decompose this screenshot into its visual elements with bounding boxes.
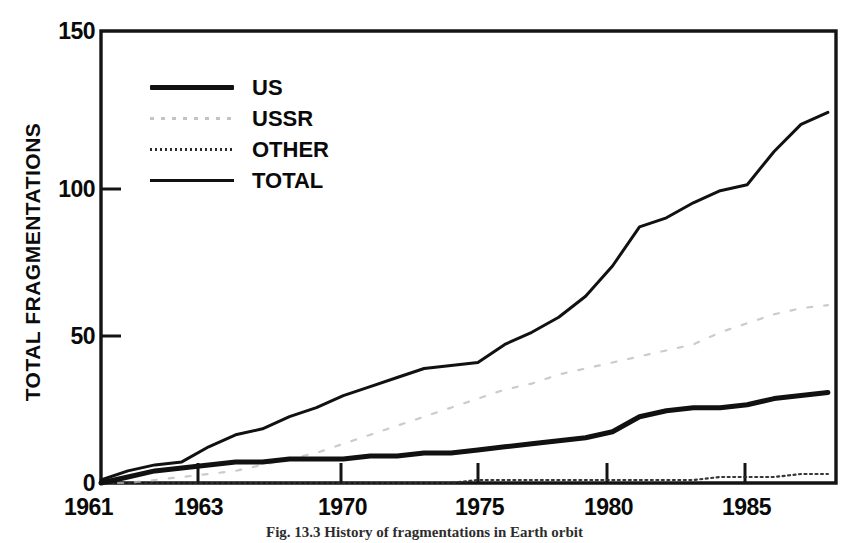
legend-swatch-total-icon [150,171,234,191]
x-tick-label-1975: 1975 [455,494,504,521]
legend-item-other: OTHER [150,134,390,165]
legend-item-us: US [150,72,390,103]
figure-container: TOTAL FRAGMENTATIONS 150 100 50 0 1961 1… [0,0,849,543]
x-tick-label-1985: 1985 [722,494,771,521]
legend-label-other: OTHER [252,139,329,161]
y-tick-label-50: 50 [54,323,95,350]
y-axis-ticks [101,189,121,336]
series-line-us [101,393,828,483]
legend-swatch-other-icon [150,140,234,160]
legend-label-us: US [252,77,283,99]
legend-item-total: TOTAL [150,165,390,196]
y-tick-label-150: 150 [50,18,95,45]
series-line-ussr [101,305,828,483]
x-tick-label-1961: 1961 [64,494,113,521]
x-tick-label-1970: 1970 [318,494,367,521]
legend-item-ussr: USSR [150,103,390,134]
legend-label-ussr: USSR [252,108,313,130]
legend-swatch-ussr-icon [150,109,234,129]
line-chart-plot [0,0,849,543]
x-tick-label-1963: 1963 [174,494,223,521]
y-tick-label-0: 0 [64,470,95,497]
chart-legend: US USSR OTHER TOTAL [150,72,390,196]
legend-swatch-us-icon [150,78,234,98]
legend-label-total: TOTAL [252,170,323,192]
figure-caption: Fig. 13.3 History of fragmentations in E… [0,524,849,543]
y-tick-label-100: 100 [42,176,95,203]
y-axis-title: TOTAL FRAGMENTATIONS [21,42,45,482]
x-tick-label-1980: 1980 [584,494,633,521]
